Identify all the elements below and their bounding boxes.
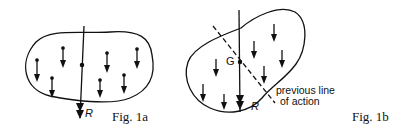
annotation-line-2: of action [280, 96, 320, 107]
figure-1a [26, 26, 154, 119]
annotation-line-1: previous line [276, 85, 335, 96]
figure-caption-a: Fig. 1a [112, 110, 148, 123]
force-arrows-a [34, 47, 140, 98]
centroid-label: G [226, 56, 235, 67]
resultant-label-a: R [85, 108, 93, 119]
resultant-label-b: R [251, 101, 259, 112]
figure-caption-b: Fig. 1b [352, 110, 389, 123]
body-outline-a [26, 32, 154, 102]
diagram-canvas [0, 0, 407, 130]
